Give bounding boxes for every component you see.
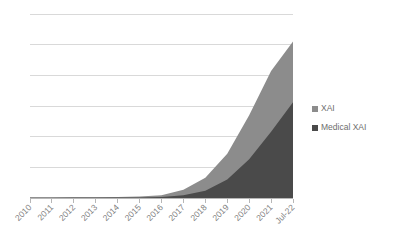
x-tick-label: 2017: [166, 202, 187, 223]
x-tick-label: 2016: [144, 202, 165, 223]
series-areas: [30, 42, 293, 198]
x-tick-label: 2014: [101, 202, 122, 223]
x-tick-label: 2021: [254, 202, 275, 223]
chart-legend: XAI Medical XAI: [312, 99, 407, 137]
area-chart: 2010201120122013201420152016201720182019…: [0, 0, 407, 249]
x-tick-label: 2012: [57, 202, 78, 223]
x-tick-label: 2010: [13, 202, 34, 223]
x-tick-label: 2020: [232, 202, 253, 223]
x-tick-label: 2015: [123, 202, 144, 223]
x-tick-label: 2018: [188, 202, 209, 223]
legend-swatch-medical-xai: [312, 125, 318, 131]
legend-item-xai[interactable]: XAI: [312, 99, 407, 118]
x-axis-labels: 2010201120122013201420152016201720182019…: [13, 202, 297, 226]
x-tick-label: Jul-22: [273, 202, 297, 226]
legend-label-medical-xai: Medical XAI: [321, 123, 366, 132]
x-tick-label: 2019: [210, 202, 231, 223]
legend-swatch-xai: [312, 106, 318, 112]
legend-item-medical-xai[interactable]: Medical XAI: [312, 118, 407, 137]
x-tick-label: 2013: [79, 202, 100, 223]
legend-label-xai: XAI: [321, 104, 335, 113]
x-tick-label: 2011: [35, 202, 55, 222]
